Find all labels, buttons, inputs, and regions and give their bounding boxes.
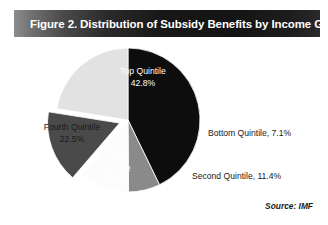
figure-container: Figure 2. Distribution of Subsidy Benefi… <box>0 0 328 225</box>
slice-label-third-quintile-name-line2: Quintile <box>88 163 144 175</box>
slice-label-top-quintile-name: Top Quintile <box>88 66 198 78</box>
source-note: Source: IMF <box>265 201 313 211</box>
slice-label-fourth-quintile-name: Fourth Quintile <box>22 122 122 134</box>
slice-label-third-quintile: Third Quintile 16.2% <box>88 151 144 186</box>
pie-chart-area: Top Quintile 42.8% Fourth Quintile 22.5%… <box>0 38 328 225</box>
slice-label-third-quintile-name-line1: Third <box>88 151 144 163</box>
page-title: Figure 2. Distribution of Subsidy Benefi… <box>30 18 328 30</box>
figure-title-banner: Figure 2. Distribution of Subsidy Benefi… <box>14 10 320 37</box>
slice-label-second-quintile: Second Quintile, 11.4% <box>192 171 281 183</box>
slice-label-third-quintile-value: 16.2% <box>88 174 144 186</box>
slice-label-fourth-quintile-value: 22.5% <box>22 134 122 146</box>
slice-label-bottom-quintile: Bottom Quintile, 7.1% <box>208 128 291 140</box>
slice-label-top-quintile-value: 42.8% <box>88 78 198 90</box>
slice-label-fourth-quintile: Fourth Quintile 22.5% <box>22 122 122 145</box>
slice-label-top-quintile: Top Quintile 42.8% <box>88 66 198 89</box>
